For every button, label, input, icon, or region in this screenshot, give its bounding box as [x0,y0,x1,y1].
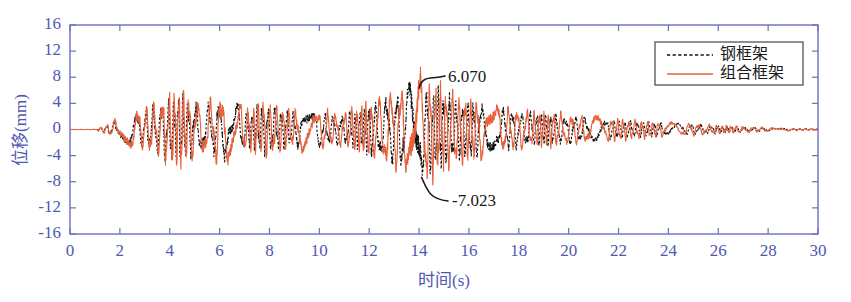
y-tick-label: -16 [38,223,61,242]
displacement-time-history-chart: 024681012141618202224262830 1612840-4-8-… [0,0,851,302]
y-tick-label: -4 [47,145,62,164]
x-tick-label: 20 [560,241,577,260]
x-tick-label: 22 [610,241,627,260]
y-tick-label: 8 [53,66,62,85]
x-tick-label: 8 [265,241,274,260]
annotation-label-positive: 6.070 [448,67,486,86]
x-axis-title: 时间(s) [418,271,470,290]
x-tick-label: 26 [710,241,727,260]
x-tick-label: 24 [660,241,678,260]
x-tick-label: 30 [810,241,827,260]
y-axis-title: 位移(mm) [11,94,30,166]
x-tick-label: 4 [165,241,174,260]
y-tick-label: -12 [38,197,61,216]
y-tick-label: 0 [53,118,62,137]
annotation-label-negative: -7.023 [452,191,496,210]
x-tick-label: 18 [510,241,527,260]
x-tick-label: 28 [760,241,777,260]
legend-label-composite-frame: 组合框架 [720,64,784,81]
x-tick-label: 2 [116,241,125,260]
x-tick-label: 12 [361,241,378,260]
x-tick-label: 16 [460,241,477,260]
x-tick-label: 0 [66,241,75,260]
chart-figure: 024681012141618202224262830 1612840-4-8-… [0,0,851,302]
legend[interactable]: 钢框架 组合框架 [655,42,803,85]
x-tick-label: 14 [411,241,429,260]
y-tick-label: 12 [44,40,61,59]
y-tick-label: 16 [44,14,61,33]
x-tick-label: 6 [215,241,224,260]
legend-label-steel-frame: 钢框架 [720,45,768,62]
y-tick-label: -8 [47,171,61,190]
x-tick-label: 10 [311,241,328,260]
y-tick-label: 4 [53,92,62,111]
